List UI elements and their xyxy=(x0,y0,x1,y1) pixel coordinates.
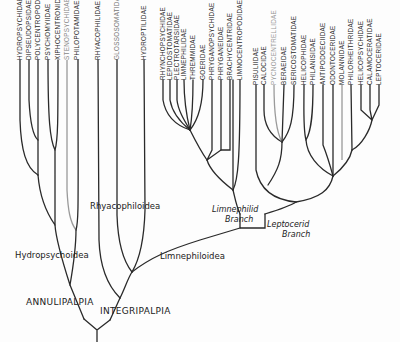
suborder-annulipalpia-label: ANNULIPALPIA xyxy=(26,297,94,307)
family-labels: HYDROPSYCHIDAE DIPSEUDOPSIDAE POLYCENTRO… xyxy=(16,0,382,85)
family-label: PYCNOCENTRELLIDAE xyxy=(270,10,277,85)
family-label: LEPIDOSTOMATIDAE xyxy=(166,12,173,80)
superfamily-limnephiloidea-label: Limnephiloidea xyxy=(160,251,225,261)
family-label: CALAMOCERATIDAE xyxy=(366,18,373,85)
family-label: BERAEIDAE xyxy=(280,46,287,85)
family-label: CALOCIDAE xyxy=(260,46,267,85)
tree-svg: HYDROPSYCHIDAE DIPSEUDOPSIDAE POLYCENTRO… xyxy=(0,0,400,342)
suborder-integripalpia-label: INTEGRIPALPIA xyxy=(100,306,171,316)
family-label: PSYCHOMYIIDAE xyxy=(44,4,51,60)
family-label: LIMNOCENTROPODIDAE xyxy=(236,0,243,80)
family-label: SERICOSTOMATIDAE xyxy=(290,16,297,85)
leptocerid-branch-label-line2: Branch xyxy=(282,230,310,239)
family-label: DIPSEUDOPSIDAE xyxy=(25,0,32,60)
family-label: HELICOPHIDAE xyxy=(300,35,307,86)
family-label: PHILOPOTAMIDAE xyxy=(73,0,80,60)
family-label: GLOSSOSOMATIDAE xyxy=(113,0,120,60)
family-label: GOERIDAE xyxy=(199,44,206,80)
superfamily-hydropsychoidea-label: Hydropsychoidea xyxy=(15,250,89,260)
family-label: LIMNEPHILIDAE xyxy=(180,28,187,80)
family-label: THREMMIDAE xyxy=(189,35,196,80)
family-label: PHRYGANOPSYCHIDAE xyxy=(208,3,215,80)
family-label: PHILORHEITHRIDAE xyxy=(347,19,354,85)
family-label: HELICOPSYCHIDAE xyxy=(357,21,364,85)
family-label: STENOPSYCHIDAE xyxy=(63,0,70,60)
family-label: BRACHYCENTRIDAE xyxy=(226,13,233,80)
family-label: RHYNCHOPSYCHIDAE xyxy=(159,7,166,80)
family-label: PHRYGANEIDAE xyxy=(217,26,224,80)
family-label: ODONTOCERIDAE xyxy=(329,26,336,85)
family-label: XIPHOCENTRONIDAE xyxy=(54,0,61,60)
phylogeny-diagram: HYDROPSYCHIDAE DIPSEUDOPSIDAE POLYCENTRO… xyxy=(0,0,400,342)
family-label: PISULIIDAE xyxy=(252,47,259,85)
family-label: MOLANNIDAE xyxy=(338,40,345,85)
leptocerid-branch-label-line1: Leptocerid xyxy=(267,220,310,229)
family-label: ANTIPODOECIIDAE xyxy=(319,22,326,85)
family-label: HYDROPSYCHIDAE xyxy=(16,0,23,60)
superfamily-rhyacophiloidea-label: Rhyacophiloidea xyxy=(90,201,160,211)
family-label: RHYACOPHILIDAE xyxy=(94,1,101,60)
family-label: HYDROPTILIDAE xyxy=(140,5,147,60)
family-label: PLECTROTARSIDAE xyxy=(173,15,180,80)
family-label: PHILANISIDAE xyxy=(309,38,316,85)
family-label: LEPTOCERIDAE xyxy=(375,33,382,85)
family-label: POLYCENTROPODIDAE xyxy=(34,0,41,60)
limnephilid-branch-label-line1: Limnephilid xyxy=(212,205,259,214)
limnephilid-branch-label-line2: Branch xyxy=(225,215,253,224)
